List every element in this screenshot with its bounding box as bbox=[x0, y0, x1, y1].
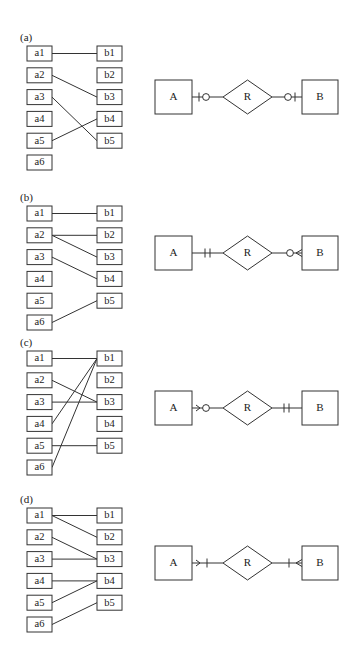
set-a-element: a2 bbox=[27, 68, 52, 83]
element-label: b5 bbox=[104, 295, 115, 306]
set-b-element: b5 bbox=[97, 133, 122, 148]
element-label: b2 bbox=[104, 69, 115, 80]
element-label: b4 bbox=[104, 418, 115, 429]
set-a-element: a3 bbox=[27, 250, 52, 265]
entity-a-label: A bbox=[170, 401, 178, 413]
set-a-element: a1 bbox=[27, 508, 52, 523]
mapping-lines bbox=[52, 359, 97, 468]
er-diagram: ARB bbox=[155, 236, 338, 270]
entity-a: A bbox=[155, 80, 192, 114]
entity-b: B bbox=[302, 391, 338, 425]
set-a-element: a4 bbox=[27, 111, 52, 126]
element-label: a3 bbox=[35, 91, 45, 102]
set-a-element: a4 bbox=[27, 271, 52, 286]
mapping-line bbox=[52, 257, 97, 279]
relationship-r: R bbox=[223, 236, 272, 270]
set-a-element: a3 bbox=[27, 552, 52, 567]
element-label: a2 bbox=[35, 229, 45, 240]
set-b-element: b4 bbox=[97, 416, 122, 431]
set-a-element: a3 bbox=[27, 90, 52, 105]
mapping-line bbox=[52, 516, 97, 538]
set-a-element: a6 bbox=[27, 460, 52, 475]
mapping-line bbox=[52, 235, 97, 257]
relationship-label: R bbox=[244, 90, 252, 102]
mapping-lines bbox=[52, 214, 97, 323]
element-label: b1 bbox=[104, 509, 115, 520]
element-label: b1 bbox=[104, 47, 115, 58]
panel-label: (a) bbox=[20, 31, 33, 44]
entity-b-label: B bbox=[316, 556, 323, 568]
set-b-element: b2 bbox=[97, 373, 122, 388]
set-b-element: b5 bbox=[97, 293, 122, 308]
entity-b-label: B bbox=[316, 246, 323, 258]
element-label: b2 bbox=[104, 374, 115, 385]
element-label: a4 bbox=[35, 418, 46, 429]
panel-a: (a)a1a2a3a4a5a6b1b2b3b4b5ARB bbox=[20, 31, 338, 170]
mapping-line bbox=[52, 359, 97, 468]
set-a-element: a1 bbox=[27, 46, 52, 61]
mapping-line bbox=[52, 581, 97, 603]
set-a-element: a6 bbox=[27, 617, 52, 632]
element-label: b2 bbox=[104, 229, 115, 240]
set-a-element: a5 bbox=[27, 133, 52, 148]
element-label: b3 bbox=[104, 251, 115, 262]
er-diagram: ARB bbox=[155, 80, 338, 114]
entity-a: A bbox=[155, 391, 192, 425]
set-a-element: a2 bbox=[27, 530, 52, 545]
set-a-element: a6 bbox=[27, 155, 52, 170]
set-a-element: a1 bbox=[27, 206, 52, 221]
mapping-line bbox=[52, 537, 97, 559]
set-a-element: a5 bbox=[27, 595, 52, 610]
element-label: b3 bbox=[104, 553, 115, 564]
element-label: a2 bbox=[35, 69, 45, 80]
panel-label: (b) bbox=[20, 191, 33, 204]
mapping-lines bbox=[52, 516, 97, 625]
mapping-line bbox=[52, 603, 97, 625]
set-b-element: b5 bbox=[97, 438, 122, 453]
relationship-r: R bbox=[223, 546, 272, 580]
element-label: b2 bbox=[104, 531, 115, 542]
mapping-line bbox=[52, 75, 97, 97]
set-b-element: b1 bbox=[97, 206, 122, 221]
element-label: a2 bbox=[35, 374, 45, 385]
set-b-element: b5 bbox=[97, 595, 122, 610]
set-b-element: b1 bbox=[97, 508, 122, 523]
element-label: a2 bbox=[35, 531, 45, 542]
element-label: b4 bbox=[104, 273, 115, 284]
element-label: b5 bbox=[104, 135, 115, 146]
entity-b: B bbox=[302, 236, 338, 270]
panel-label: (d) bbox=[20, 493, 33, 506]
panel-label: (c) bbox=[20, 336, 33, 349]
element-label: a6 bbox=[35, 618, 45, 629]
element-label: a4 bbox=[35, 273, 46, 284]
entity-a-label: A bbox=[170, 90, 178, 102]
set-a-element: a5 bbox=[27, 293, 52, 308]
mapping-line bbox=[52, 119, 97, 141]
element-label: a1 bbox=[35, 352, 45, 363]
element-label: b3 bbox=[104, 91, 115, 102]
entity-b: B bbox=[302, 546, 338, 580]
entity-a: A bbox=[155, 236, 192, 270]
mapping-lines bbox=[52, 54, 97, 141]
element-label: b3 bbox=[104, 396, 115, 407]
set-b-element: b1 bbox=[97, 46, 122, 61]
entity-a: A bbox=[155, 546, 192, 580]
set-b-element: b3 bbox=[97, 395, 122, 410]
element-label: a3 bbox=[35, 396, 45, 407]
entity-a-label: A bbox=[170, 246, 178, 258]
element-label: a5 bbox=[35, 440, 45, 451]
set-b-element: b2 bbox=[97, 228, 122, 243]
relationship-label: R bbox=[244, 246, 252, 258]
set-a-element: a4 bbox=[27, 573, 52, 588]
set-b-element: b2 bbox=[97, 530, 122, 545]
set-a-element: a2 bbox=[27, 373, 52, 388]
set-a-element: a1 bbox=[27, 351, 52, 366]
set-b-element: b2 bbox=[97, 68, 122, 83]
element-label: a5 bbox=[35, 135, 45, 146]
set-b-element: b4 bbox=[97, 271, 122, 286]
er-diagram: ARB bbox=[155, 391, 338, 425]
set-a-element: a3 bbox=[27, 395, 52, 410]
relationship-label: R bbox=[244, 401, 252, 413]
panel-d: (d)a1a2a3a4a5a6b1b2b3b4b5ARB bbox=[20, 493, 338, 632]
set-b-element: b4 bbox=[97, 573, 122, 588]
